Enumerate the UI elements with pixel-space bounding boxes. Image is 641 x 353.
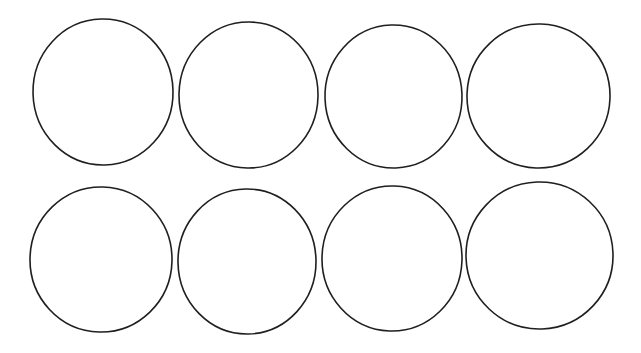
worksheet-canvas <box>0 0 641 353</box>
sheet-background <box>0 0 641 353</box>
circle-grid <box>0 0 641 353</box>
